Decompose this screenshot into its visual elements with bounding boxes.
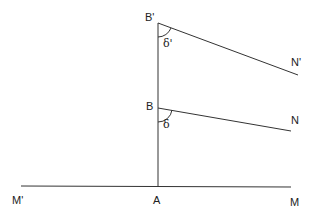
segment-b-n (158, 108, 291, 131)
label-b: B (146, 100, 153, 112)
segment-b-prime-n-prime (158, 23, 298, 75)
label-m-prime: M' (12, 194, 23, 206)
label-m: M (290, 196, 299, 208)
label-n-prime: N' (291, 56, 301, 68)
angle-arc-delta-prime (158, 28, 171, 37)
label-b-prime: B' (145, 11, 154, 23)
geometry-diagram: B' δ' B δ N' N M' A M (0, 0, 311, 215)
label-n: N (291, 114, 299, 126)
label-delta: δ (163, 118, 170, 131)
label-a: A (153, 194, 161, 206)
segment-m-prime-m (21, 186, 291, 187)
label-delta-prime: δ' (163, 37, 173, 50)
